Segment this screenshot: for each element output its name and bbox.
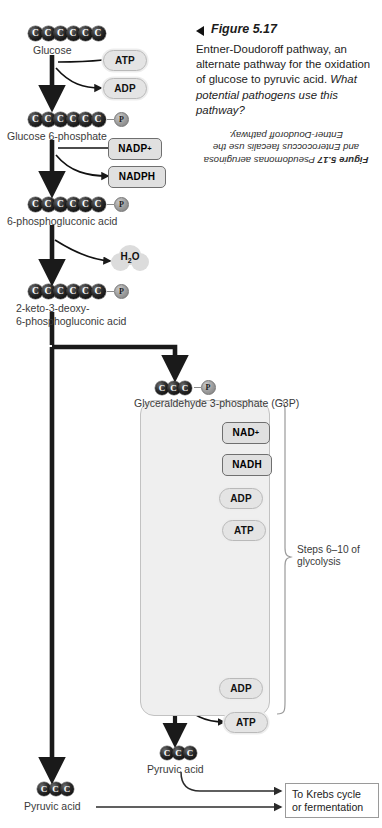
branch-to-g3p xyxy=(52,347,175,376)
phosphate-bond xyxy=(194,387,201,389)
phosphate-bond xyxy=(107,204,114,206)
phosphate-group: P xyxy=(114,197,129,212)
cofactor-atp-2: ATP xyxy=(222,520,266,541)
cofactor-atp-3: ATP xyxy=(224,712,268,733)
compound-6-phosphogluconic-acid: C C C C C C P xyxy=(28,197,129,212)
phosphate-group: P xyxy=(114,284,129,299)
compound-glucose-6-phosphate: C C C C C C P xyxy=(28,112,129,127)
carbon-atom: C xyxy=(91,284,106,299)
figure-answer-inverted: Figure 5.17 Pseudomonas aeruginosa and E… xyxy=(196,128,376,166)
glycolysis-steps-box xyxy=(140,400,270,716)
cofactor-nadh: NADH xyxy=(222,454,272,476)
cofactor-adp-2: ADP xyxy=(219,488,263,509)
carbon-atom: C xyxy=(91,112,106,127)
curve-nadph-out xyxy=(56,155,108,176)
answer-species-1: Pseudomonas aeruginosa xyxy=(204,155,315,166)
cofactor-nad-plus: NAD+ xyxy=(222,422,270,444)
compound-glyceraldehyde-3-phosphate: C C C P xyxy=(155,380,216,395)
phosphate-bond xyxy=(107,119,114,121)
cofactor-atp-1: ATP xyxy=(103,50,147,71)
curve-atp-in xyxy=(58,60,103,62)
nadp-plus-text: NADP xyxy=(118,144,147,154)
cofactor-nadph: NADPH xyxy=(108,166,166,188)
carbon-atom: C xyxy=(91,197,106,212)
compound-2-keto-3-deoxy-6-phosphogluconic-acid: C C C C C C P xyxy=(28,284,129,299)
steps-6-10-label: Steps 6–10 of glycolysis xyxy=(297,544,377,569)
label-6-phosphogluconic-acid: 6-phosphogluconic acid xyxy=(7,215,167,228)
steps-brace xyxy=(277,400,291,714)
figure-caption: Entner-Doudoroff pathway, an alternate p… xyxy=(196,42,374,118)
cofactor-adp-1: ADP xyxy=(103,78,147,99)
label-kdpg: 2-keto-3-deoxy- 6-phosphogluconic acid xyxy=(16,302,176,327)
answer-species-2: Enterococcus faecalis xyxy=(247,142,340,153)
figure-marker-icon xyxy=(196,26,204,36)
carbon-atom: C xyxy=(178,381,192,395)
compound-pyruvic-acid-entner: C C C xyxy=(37,782,72,796)
phosphate-bond xyxy=(107,291,114,293)
answer-figure-number: Figure 5.17 xyxy=(318,155,369,166)
curve-water-out xyxy=(55,240,110,261)
carbon-atom: C xyxy=(91,26,106,41)
entner-doudoroff-diagram: C C C C C C Glucose ATP ADP C C C C C C … xyxy=(0,0,382,828)
carbon-atom: C xyxy=(60,782,74,796)
carbon-atom: C xyxy=(183,746,197,760)
figure-title: Figure 5.17 xyxy=(211,22,277,36)
label-pyruvic-acid-glycolysis: Pyruvic acid xyxy=(147,763,237,776)
water-text: H2O xyxy=(110,251,150,262)
label-glyceraldehyde-3-phosphate: Glyceraldehyde 3-phosphate (G3P) xyxy=(134,397,364,410)
cofactor-water: H2O xyxy=(110,245,150,273)
compound-pyruvic-acid-glycolysis: C C C xyxy=(160,746,195,760)
answer-conjunction: and xyxy=(343,142,359,153)
nad-plus-text: NAD xyxy=(233,428,255,438)
curve-adp-out xyxy=(56,68,101,88)
cofactor-adp-3: ADP xyxy=(219,678,263,699)
phosphate-group: P xyxy=(114,112,129,127)
cofactor-nadp-plus: NADP+ xyxy=(108,138,162,160)
phosphate-group: P xyxy=(201,380,216,395)
krebs-destination-box: To Krebs cycle or fermentation xyxy=(285,783,379,818)
label-pyruvic-acid-entner: Pyruvic acid xyxy=(24,800,114,813)
compound-glucose: C C C C C C xyxy=(28,26,103,41)
